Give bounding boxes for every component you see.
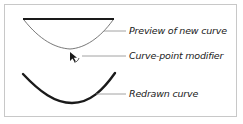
redrawn-curve xyxy=(23,73,115,103)
curve-point-modifier-cursor-icon xyxy=(70,52,79,62)
curve-point-modifier-label: Curve-point modifier xyxy=(129,50,223,61)
diagram-artwork xyxy=(0,0,243,124)
redrawn-curve-label: Redrawn curve xyxy=(129,88,198,99)
preview-curve xyxy=(24,20,113,49)
preview-curve-label: Preview of new curve xyxy=(129,25,227,36)
